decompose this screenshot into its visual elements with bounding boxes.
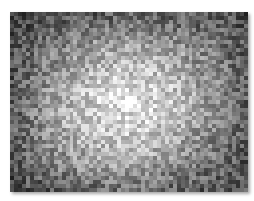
- astronomical-image-frame: [10, 12, 248, 192]
- noisy-grayscale-image: [10, 12, 248, 192]
